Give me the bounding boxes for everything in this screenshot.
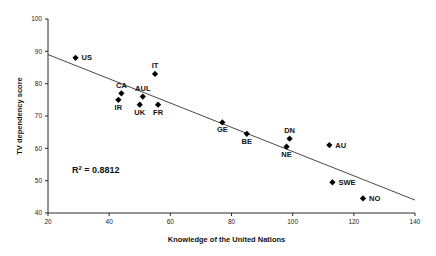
x-tick-60: 60 <box>167 218 175 225</box>
y-tick-50: 50 <box>35 177 43 184</box>
x-tick-20: 20 <box>44 218 52 225</box>
point-label-it: IT <box>152 61 159 70</box>
y-tick-80: 80 <box>35 80 43 87</box>
axes <box>48 19 415 213</box>
r-squared-text: R2 = 0.8812 <box>72 165 120 175</box>
point-label-aul: AUL <box>135 84 151 93</box>
point-label-no: NO <box>369 194 380 203</box>
point-label-ge: GE <box>217 125 228 134</box>
x-tick-80: 80 <box>228 218 236 225</box>
data-point-labels: USITCAAULIRUKFRGEBEDNAUNESWENO <box>82 53 381 203</box>
point-label-swe: SWE <box>338 178 355 187</box>
point-label-be: BE <box>242 137 252 146</box>
axis-titles: Knowledge of the United NationsTV depend… <box>15 77 285 244</box>
point-label-dn: DN <box>284 126 295 135</box>
axis-ticks <box>45 19 415 216</box>
data-point-swe <box>329 179 335 185</box>
y-tick-70: 70 <box>35 112 43 119</box>
data-point-aul <box>140 94 146 100</box>
point-label-fr: FR <box>153 108 164 117</box>
x-tick-120: 120 <box>348 218 359 225</box>
point-label-uk: UK <box>134 108 145 117</box>
data-point-au <box>326 142 332 148</box>
data-point-us <box>72 55 78 61</box>
chart-figure: 40506070809010020406080100120140 USITCAA… <box>0 0 436 256</box>
point-label-ca: CA <box>116 81 127 90</box>
point-label-ne: NE <box>281 150 291 159</box>
trendline <box>48 55 415 201</box>
data-point-it <box>152 71 158 77</box>
data-point-ca <box>118 90 124 96</box>
y-tick-40: 40 <box>35 209 43 216</box>
data-point-dn <box>287 136 293 142</box>
r-squared-annotation: R2 = 0.8812 <box>72 165 120 175</box>
y-tick-60: 60 <box>35 145 43 152</box>
y-axis-title: TV dependency score <box>15 77 24 155</box>
point-label-us: US <box>82 53 92 62</box>
scatter-plot: 40506070809010020406080100120140 USITCAA… <box>0 0 436 256</box>
data-point-no <box>360 195 366 201</box>
x-tick-100: 100 <box>287 218 298 225</box>
y-tick-90: 90 <box>35 48 43 55</box>
point-label-ir: IR <box>115 103 123 112</box>
regression-line <box>48 55 415 201</box>
point-label-au: AU <box>335 141 346 150</box>
x-tick-140: 140 <box>410 218 421 225</box>
x-axis-title: Knowledge of the United Nations <box>168 235 286 244</box>
x-tick-40: 40 <box>106 218 114 225</box>
axis-tick-labels: 40506070809010020406080100120140 <box>31 15 421 225</box>
y-tick-100: 100 <box>31 15 42 22</box>
